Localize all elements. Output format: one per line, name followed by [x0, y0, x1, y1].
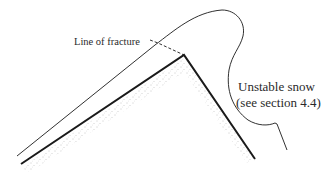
fracture-label: Line of fracture — [74, 36, 140, 47]
subsurface-stipple — [21, 58, 256, 172]
section-reference-label: (see section 4.4) — [236, 95, 321, 111]
fracture-line — [150, 40, 184, 55]
unstable-snow-label: Unstable snow — [238, 79, 315, 95]
